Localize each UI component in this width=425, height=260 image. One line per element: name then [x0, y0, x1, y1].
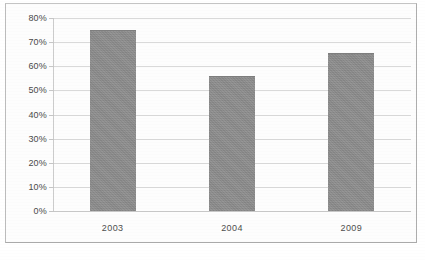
x-axis-label: 2003	[102, 223, 124, 233]
y-axis-label: 30%	[28, 134, 47, 144]
figure-caption	[60, 249, 390, 260]
y-axis-label: 10%	[28, 182, 47, 192]
gridline	[53, 18, 411, 19]
x-axis-label: 2009	[341, 223, 363, 233]
x-axis-label: 2004	[221, 223, 243, 233]
bar	[90, 30, 136, 211]
y-axis-label: 50%	[28, 85, 47, 95]
chart-frame: 0%10%20%30%40%50%60%70%80% 200320042009	[5, 3, 417, 243]
y-axis-label: 60%	[28, 61, 47, 71]
plot-area: 0%10%20%30%40%50%60%70%80%	[53, 18, 411, 211]
y-axis-tick	[49, 115, 54, 116]
y-axis-tick	[49, 211, 54, 212]
scanned-page: 0%10%20%30%40%50%60%70%80% 200320042009	[0, 0, 425, 260]
y-axis-tick	[49, 18, 54, 19]
y-axis-label: 40%	[28, 110, 47, 120]
y-axis-tick	[49, 163, 54, 164]
y-axis-label: 0%	[34, 206, 47, 216]
y-axis-tick	[49, 139, 54, 140]
y-axis-tick	[49, 187, 54, 188]
y-axis-label: 70%	[28, 37, 47, 47]
gridline	[53, 211, 411, 212]
y-axis-tick	[49, 90, 54, 91]
bar	[328, 53, 374, 211]
y-axis-label: 20%	[28, 158, 47, 168]
y-axis-label: 80%	[28, 13, 47, 23]
y-axis-tick	[49, 42, 54, 43]
y-axis-tick	[49, 66, 54, 67]
bar	[209, 76, 255, 211]
